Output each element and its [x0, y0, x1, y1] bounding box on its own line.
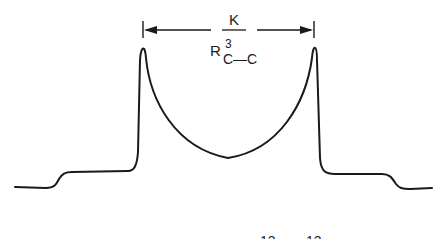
arrowhead-left-icon: [144, 26, 157, 34]
spectrum-trace: [15, 48, 432, 189]
bottom-label-1: 13: [260, 233, 276, 239]
denominator-subscript: C—C: [223, 51, 257, 67]
spectrum-diagram: K R 3 C—C 13 13: [0, 0, 446, 239]
denominator-r: R: [210, 42, 221, 59]
numerator-k: K: [229, 11, 239, 28]
denominator-superscript: 3: [225, 37, 232, 51]
arrowhead-right-icon: [300, 26, 313, 34]
bottom-label-2: 13: [306, 233, 322, 239]
